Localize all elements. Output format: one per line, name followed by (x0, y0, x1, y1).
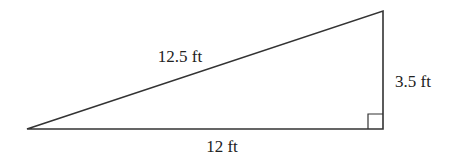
right-triangle (27, 11, 383, 129)
triangle-diagram: 12.5 ft 3.5 ft 12 ft (0, 0, 449, 165)
base-label: 12 ft (206, 137, 238, 156)
hypotenuse-label: 12.5 ft (158, 47, 203, 66)
height-label: 3.5 ft (395, 72, 431, 91)
right-angle-marker (368, 114, 383, 129)
